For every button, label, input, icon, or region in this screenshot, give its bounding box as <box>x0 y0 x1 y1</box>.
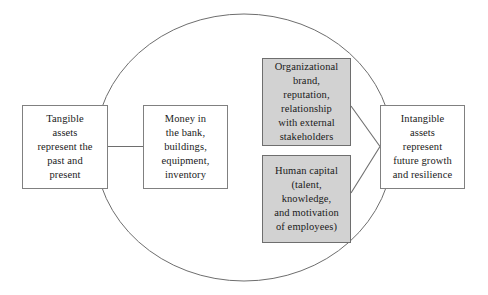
node-intangible-assets-label: Intangible assets represent future growt… <box>384 112 461 181</box>
node-tangible-assets[interactable]: Tangible assets represent the past and p… <box>22 105 108 189</box>
node-tangible-assets-label: Tangible assets represent the past and p… <box>26 112 104 181</box>
connector-human-capital-to-intangible <box>351 147 380 194</box>
node-money-label: Money in the bank, buildings, equipment,… <box>147 112 224 181</box>
node-intangible-assets[interactable]: Intangible assets represent future growt… <box>380 105 465 189</box>
connector-brand-to-intangible <box>351 106 380 147</box>
diagram-canvas: Tangible assets represent the past and p… <box>0 0 488 295</box>
node-money[interactable]: Money in the bank, buildings, equipment,… <box>143 105 228 189</box>
node-human-capital-label: Human capital (talent, knowledge, and mo… <box>266 164 347 233</box>
node-organizational-brand-label: Organizational brand, reputation, relati… <box>266 60 347 143</box>
node-human-capital[interactable]: Human capital (talent, knowledge, and mo… <box>262 155 351 243</box>
node-organizational-brand[interactable]: Organizational brand, reputation, relati… <box>262 58 351 146</box>
